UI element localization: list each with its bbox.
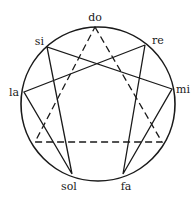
- label-si: si: [35, 35, 45, 48]
- label-la: la: [9, 86, 20, 99]
- label-fa: fa: [121, 180, 132, 193]
- solid-hexad-path: [24, 45, 172, 174]
- outer-circle: [21, 27, 175, 181]
- label-mi: mi: [176, 83, 190, 96]
- enneagram-diagram: do re mi fa sol la si: [0, 0, 196, 201]
- label-do: do: [88, 11, 102, 24]
- label-re: re: [152, 34, 164, 47]
- label-sol: sol: [61, 180, 77, 193]
